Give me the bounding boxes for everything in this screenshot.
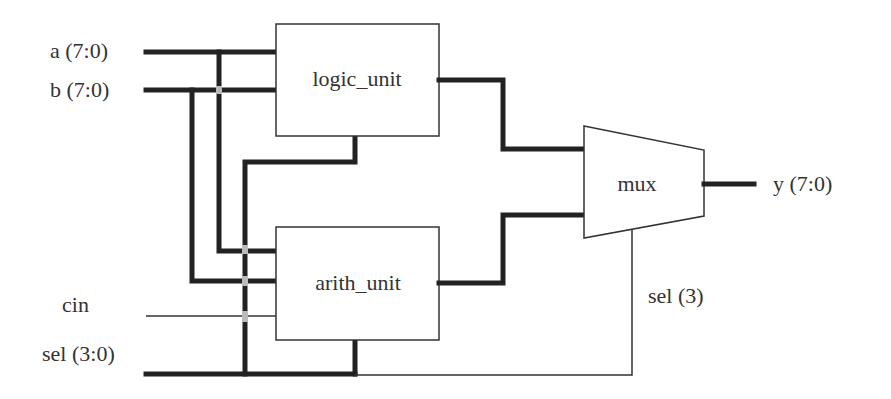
input-label-a: a (7:0) (50, 38, 108, 63)
block-diagram: a (7:0) b (7:0) cin sel (3:0) logic_unit… (0, 0, 891, 399)
crossing-marker (242, 311, 248, 322)
crossing-marker (242, 276, 248, 286)
crossing-marker (216, 86, 222, 94)
input-label-cin: cin (62, 292, 89, 317)
input-label-b: b (7:0) (50, 77, 109, 102)
output-label-y: y (7:0) (773, 171, 832, 196)
wire-logic-to-mux (439, 80, 584, 149)
mux-label: mux (617, 171, 656, 196)
crossing-marker (242, 245, 248, 254)
input-label-sel: sel (3:0) (42, 341, 115, 366)
arith-unit-label: arith_unit (315, 270, 401, 295)
wire-arith-to-mux (439, 215, 584, 283)
logic-unit-label: logic_unit (312, 66, 401, 91)
mux-select-label: sel (3) (648, 283, 704, 308)
